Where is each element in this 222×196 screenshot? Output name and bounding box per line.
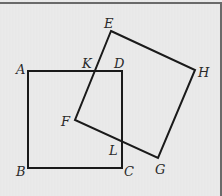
- label-b: B: [15, 164, 26, 179]
- label-k: K: [81, 56, 93, 71]
- label-h: H: [197, 65, 210, 80]
- label-d: D: [113, 56, 125, 71]
- label-l: L: [108, 143, 118, 158]
- label-f: F: [60, 114, 71, 129]
- label-e: E: [103, 16, 114, 31]
- label-c: C: [124, 164, 134, 179]
- label-a: A: [15, 62, 25, 77]
- label-g: G: [155, 162, 165, 177]
- geometry-figure: A B C D E F G H K L: [0, 0, 222, 196]
- square-efgh: [75, 31, 195, 158]
- diagram-canvas: A B C D E F G H K L: [0, 0, 222, 196]
